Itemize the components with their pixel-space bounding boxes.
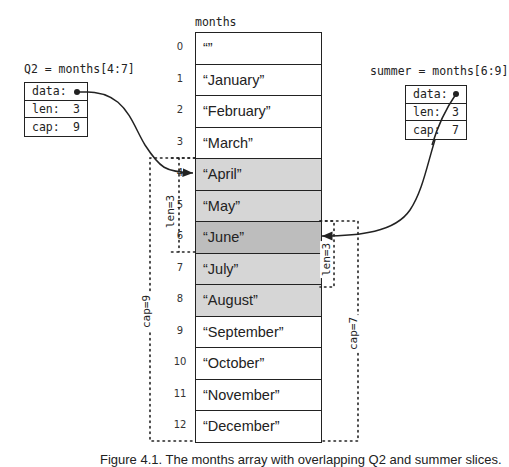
summer-slice-title: summer = months[6:9] [370, 64, 508, 78]
q2-len-label: len=3 [164, 193, 177, 230]
cap-field-label: cap: [32, 120, 60, 134]
q2-data-row: data: [25, 83, 87, 101]
summer-data-row: data: [406, 86, 466, 104]
summer-len-row: len: 3 [406, 104, 466, 122]
q2-cap-label: cap=9 [140, 293, 153, 330]
len-field-value: 3 [452, 105, 459, 119]
len-field-label: len: [413, 105, 441, 119]
summer-cap-row: cap: 7 [406, 121, 466, 139]
cap-field-value: 7 [452, 123, 459, 137]
cap-field-label: cap: [413, 123, 441, 137]
len-field-value: 3 [73, 102, 80, 116]
len-field-label: len: [32, 102, 60, 116]
summer-len-label: len=3 [320, 241, 333, 278]
summer-cap-label: cap=7 [347, 315, 360, 352]
cap-field-value: 9 [73, 120, 80, 134]
data-field-label: data: [32, 84, 67, 98]
q2-slice-title: Q2 = months[4:7] [24, 62, 135, 76]
q2-len-row: len: 3 [25, 101, 87, 119]
q2-slice-header: data: len: 3 cap: 9 [24, 82, 88, 137]
summer-slice-header: data: len: 3 cap: 7 [405, 85, 467, 140]
data-field-label: data: [413, 87, 448, 101]
q2-pointer-arrow [77, 92, 193, 173]
figure-caption: Figure 4.1. The months array with overla… [100, 452, 502, 467]
q2-cap-row: cap: 9 [25, 118, 87, 136]
